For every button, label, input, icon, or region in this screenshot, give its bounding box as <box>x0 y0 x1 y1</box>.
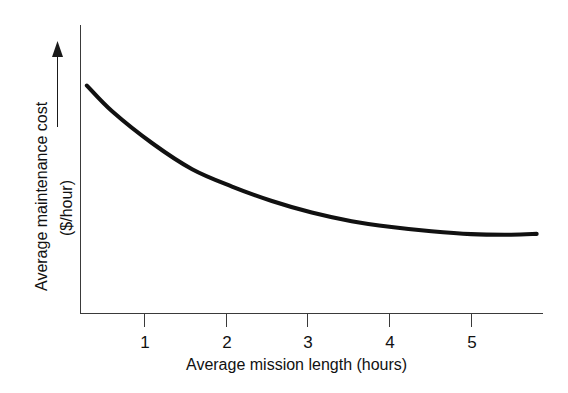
x-axis-title: Average mission length (hours) <box>186 357 407 373</box>
x-tick-label-5: 5 <box>457 334 487 351</box>
y-axis-title-line-2: ($/hour) <box>59 180 75 236</box>
x-axis-ticks <box>145 314 472 328</box>
data-series-curve <box>87 86 537 235</box>
y-axis-title-line-1: Average maintenance cost <box>34 102 50 291</box>
y-axis-title: Average maintenance cost ($/hour) <box>0 0 72 330</box>
x-tick-label-1: 1 <box>130 334 160 351</box>
x-tick-label-3: 3 <box>293 334 323 351</box>
chart-figure: 1 2 3 4 5 Average mission length (hours)… <box>0 0 568 393</box>
x-tick-label-4: 4 <box>375 334 405 351</box>
x-tick-label-2: 2 <box>212 334 242 351</box>
